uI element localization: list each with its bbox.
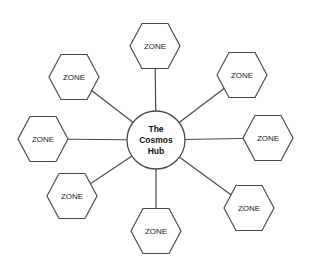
zone-label: ZONE (144, 42, 166, 51)
zone-node-right: ZONE (243, 116, 293, 161)
zone-node-lower-left: ZONE (47, 174, 97, 219)
zone-label: ZONE (61, 192, 83, 201)
zone-label: ZONE (32, 135, 54, 144)
zone-label: ZONE (145, 227, 167, 236)
zone-label: ZONE (238, 204, 260, 213)
zone-label: ZONE (257, 134, 279, 143)
hub-label-line-1: The (148, 124, 163, 134)
zone-label: ZONE (231, 71, 253, 80)
zone-node-top: ZONE (130, 24, 180, 69)
zone-label: ZONE (63, 73, 85, 82)
zone-node-upper-left: ZONE (49, 55, 99, 100)
zone-node-upper-right: ZONE (217, 53, 267, 98)
hub-label-line-2: Cosmos (139, 135, 173, 145)
hub-and-spoke-diagram: ZONEZONEZONEZONEZONEZONEZONEZONE The Cos… (0, 0, 309, 273)
zone-node-bottom: ZONE (131, 209, 181, 254)
zone-node-lower-right: ZONE (224, 186, 274, 231)
zone-node-left: ZONE (18, 117, 68, 162)
hub-node: The Cosmos Hub (127, 111, 185, 169)
hub-label-line-3: Hub (148, 146, 165, 156)
